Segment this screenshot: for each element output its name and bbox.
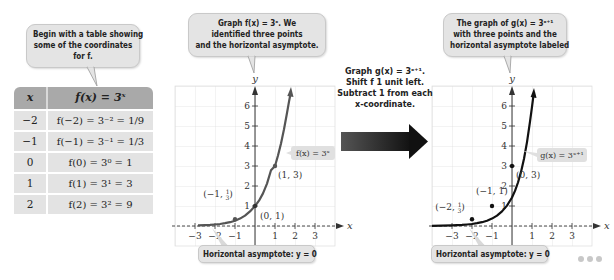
y-axis-label: y — [251, 73, 258, 84]
x-axis-label: x — [604, 220, 610, 231]
x-tick-label: 3 — [569, 231, 575, 241]
y-tick-label: 4 — [501, 141, 507, 151]
asymptote-label: Horizontal asymptote: y = 0 — [436, 249, 543, 260]
point-label: (1, 3) — [278, 170, 302, 180]
x-tick-label: −1 — [228, 231, 241, 241]
function-label: f(x) = 3ˣ — [296, 149, 330, 158]
dot — [578, 256, 584, 262]
x-tick-label: 1 — [272, 231, 278, 241]
x-tick-label: −3 — [188, 231, 202, 241]
y-tick-label: 4 — [244, 141, 250, 151]
x-tick-label: 2 — [549, 231, 555, 241]
point-label: (0, 3) — [516, 170, 540, 180]
y-tick-label: 6 — [501, 101, 507, 111]
asymptote-label: Horizontal asymptote: y = 0 — [203, 249, 310, 260]
x-tick-label: −3 — [445, 231, 459, 241]
point-label: (−1, 1) — [476, 186, 508, 196]
y-tick-label: 3 — [244, 161, 250, 171]
note-line: Shift f 1 unit left. — [335, 77, 435, 88]
callout-line: with three points and the — [450, 29, 560, 40]
dot — [587, 256, 593, 262]
point-label: (0, 1) — [260, 211, 284, 221]
more-options-icon[interactable] — [578, 256, 602, 262]
y-tick-label: 3 — [501, 161, 507, 171]
x-tick-label: 2 — [292, 231, 298, 241]
left-asymptote-callout: Horizontal asymptote: y = 0 — [198, 245, 315, 263]
note-line: x-coordinate. — [335, 99, 435, 110]
note-line: Graph g(x) = 3ˣ⁺¹. — [335, 66, 435, 77]
note-line: Subtract 1 from each — [335, 88, 435, 99]
callout-pointer — [502, 55, 516, 75]
callout-line: The graph of g(x) = 3ˣ⁺¹ — [450, 18, 560, 29]
y-tick-label: 2 — [244, 181, 250, 191]
dot — [596, 256, 602, 262]
y-tick-label: 5 — [501, 121, 507, 131]
x-tick-label: 1 — [529, 231, 535, 241]
y-tick-label: 6 — [244, 101, 250, 111]
right-graph-callout: The graph of g(x) = 3ˣ⁺¹ with three poin… — [443, 13, 567, 57]
right-asymptote-callout: Horizontal asymptote: y = 0 — [431, 245, 548, 263]
y-tick-label: 5 — [244, 121, 250, 131]
x-tick-label: 3 — [312, 231, 318, 241]
function-label: g(x) = 3ˣ⁺¹ — [540, 151, 584, 160]
x-tick-label: −1 — [485, 231, 498, 241]
callout-line: horizontal asymptote labeled — [450, 40, 560, 51]
y-tick-label: 1 — [244, 201, 250, 211]
x-axis-label: x — [347, 220, 353, 231]
transformation-note: Graph g(x) = 3ˣ⁺¹. Shift f 1 unit left. … — [335, 66, 435, 110]
